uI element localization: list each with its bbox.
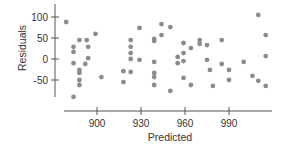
data-point: [175, 55, 180, 60]
data-point: [152, 60, 157, 65]
data-point: [189, 46, 194, 51]
data-point: [121, 80, 126, 85]
data-point: [71, 44, 76, 49]
data-point: [197, 42, 202, 47]
data-point: [77, 71, 82, 76]
data-point: [208, 68, 213, 73]
data-point: [86, 44, 91, 49]
data-point: [263, 33, 268, 38]
y-axis-title: Residuals: [16, 25, 28, 71]
y-tick-label: -50: [34, 75, 49, 86]
data-point: [227, 78, 232, 83]
data-point: [84, 38, 89, 43]
data-point: [181, 41, 186, 46]
data-point: [99, 75, 104, 80]
data-point: [128, 51, 133, 56]
data-point: [83, 62, 88, 67]
data-point: [181, 51, 186, 56]
data-point: [128, 57, 133, 62]
data-point: [168, 89, 173, 94]
y-axis: 100500-50 Residuals: [16, 4, 59, 97]
x-ticks: 900930960990: [89, 107, 238, 129]
x-tick-label: 930: [133, 118, 150, 129]
data-point: [263, 54, 268, 59]
data-points: [64, 13, 268, 100]
data-point: [71, 94, 76, 99]
data-point: [77, 78, 82, 83]
data-point: [263, 84, 268, 89]
y-tick-label: 100: [31, 12, 48, 23]
data-point: [159, 22, 164, 27]
data-point: [137, 57, 142, 62]
data-point: [64, 20, 69, 25]
data-point: [121, 69, 126, 74]
data-point: [211, 84, 216, 89]
data-point: [189, 83, 194, 88]
data-point: [77, 38, 82, 43]
data-point: [128, 38, 133, 43]
x-axis-title: Predicted: [148, 131, 193, 143]
data-point: [227, 68, 232, 73]
x-tick-label: 900: [89, 118, 106, 129]
data-point: [152, 71, 157, 76]
data-point: [71, 61, 76, 66]
data-point: [219, 62, 224, 67]
data-point: [256, 13, 261, 18]
data-point: [71, 50, 76, 55]
data-point: [205, 43, 210, 48]
data-point: [159, 33, 164, 38]
data-point: [137, 26, 142, 31]
data-point: [77, 83, 82, 88]
data-point: [250, 73, 255, 78]
data-point: [152, 75, 157, 80]
data-point: [181, 59, 186, 64]
data-point: [168, 25, 173, 30]
data-point: [219, 38, 224, 43]
data-point: [241, 60, 246, 65]
data-point: [205, 57, 210, 62]
data-point: [86, 56, 91, 61]
data-point: [175, 61, 180, 66]
x-tick-label: 990: [221, 118, 238, 129]
x-axis: 900930960990 Predicted: [64, 107, 272, 143]
data-point: [93, 31, 98, 36]
y-tick-label: 0: [42, 54, 48, 65]
x-tick-label: 960: [177, 118, 194, 129]
data-point: [152, 83, 157, 88]
y-tick-label: 50: [37, 33, 49, 44]
residual-scatter-plot: 100500-50 Residuals 900930960990 Predict…: [0, 0, 284, 153]
data-point: [128, 44, 133, 49]
data-point: [128, 70, 133, 75]
data-point: [152, 39, 157, 44]
data-point: [256, 78, 261, 83]
data-point: [181, 76, 186, 81]
